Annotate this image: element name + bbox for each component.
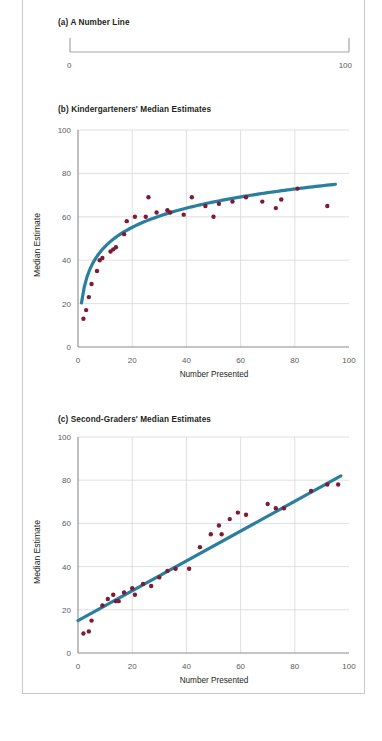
panel-b-xaxis-label: Number Presented	[180, 370, 249, 379]
panel-c-ticklabels: 020406080100020406080100	[58, 433, 357, 671]
svg-text:40: 40	[62, 563, 71, 572]
svg-text:80: 80	[290, 356, 299, 365]
svg-text:20: 20	[62, 300, 71, 309]
svg-text:100: 100	[58, 126, 72, 135]
number-line-label-left: 0	[67, 61, 72, 70]
svg-text:20: 20	[128, 356, 137, 365]
svg-text:60: 60	[62, 519, 71, 528]
svg-text:40: 40	[62, 256, 71, 265]
svg-text:80: 80	[62, 476, 71, 485]
panel-b-kindergarteners: (b) Kindergarteners' Median Estimates 02…	[0, 90, 382, 390]
svg-text:100: 100	[58, 433, 72, 442]
svg-text:60: 60	[236, 662, 245, 671]
svg-text:60: 60	[62, 213, 71, 222]
svg-text:20: 20	[62, 606, 71, 615]
svg-text:100: 100	[342, 662, 356, 671]
panel-a-number-line: (a) A Number Line 0 100	[0, 0, 382, 90]
panel-c-second-graders: (c) Second-Graders' Median Estimates 020…	[0, 400, 382, 696]
panel-b-axes	[78, 130, 349, 347]
panel-b-ticklabels: 020406080100020406080100	[58, 126, 357, 365]
panel-b-gridlines	[78, 130, 349, 347]
number-line-label-right: 100	[339, 61, 353, 70]
svg-text:60: 60	[236, 356, 245, 365]
figure-container: (a) A Number Line 0 100 (b) Kindergarten…	[0, 0, 382, 741]
svg-text:20: 20	[128, 662, 137, 671]
panel-c-data-points	[81, 482, 340, 635]
panel-b-yaxis-label: Median Estimate	[32, 213, 42, 277]
svg-text:0: 0	[67, 343, 72, 352]
panel-c-xaxis-label: Number Presented	[180, 676, 249, 685]
number-line-svg: 0 100	[0, 0, 382, 90]
svg-text:40: 40	[182, 662, 191, 671]
number-line-graphic	[70, 38, 349, 52]
svg-text:80: 80	[290, 662, 299, 671]
panel-b-data-points	[81, 186, 329, 321]
svg-text:0: 0	[76, 356, 81, 365]
svg-text:0: 0	[67, 649, 72, 658]
panel-c-chart-svg: 020406080100020406080100 Number Presente…	[0, 400, 382, 696]
panel-b-logarithmic-fit-curve	[82, 184, 336, 303]
svg-text:80: 80	[62, 169, 71, 178]
panel-c-linear-fit-line	[78, 476, 341, 621]
panel-b-chart-svg: 020406080100020406080100 Number Presente…	[0, 90, 382, 390]
svg-text:40: 40	[182, 356, 191, 365]
svg-text:0: 0	[76, 662, 81, 671]
panel-c-yaxis-label: Median Estimate	[32, 520, 42, 584]
svg-text:100: 100	[342, 356, 356, 365]
